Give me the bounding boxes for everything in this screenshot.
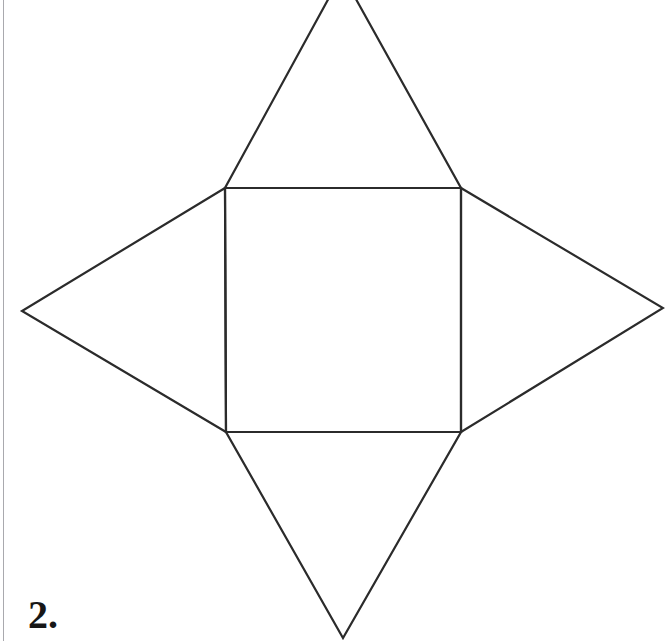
worksheet-page: 2. [0,0,665,641]
square-pyramid-net-figure [0,0,665,641]
right-triangle [461,188,663,432]
top-triangle [225,0,461,188]
bottom-triangle [226,432,461,638]
central-square [225,188,461,432]
problem-number-label: 2. [28,595,58,635]
left-triangle [22,188,226,432]
